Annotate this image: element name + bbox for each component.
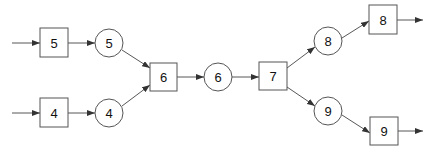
box-node-5: 5 [40,28,68,57]
edge-circle4-box6 [122,85,150,106]
circle-node-label: 6 [214,70,221,85]
circle-node-4: 4 [95,99,123,127]
circle-node-5: 5 [95,29,123,57]
edge-box7-circle9 [287,87,315,106]
circle-node-label: 8 [324,34,331,49]
edge-circle5-box6 [122,50,150,68]
box-node-label: 7 [269,69,276,84]
circle-node-9: 9 [314,97,342,125]
box-node-label: 4 [50,106,57,121]
circle-node-8: 8 [314,27,342,55]
box-node-label: 6 [160,70,167,85]
circle-node-label: 5 [105,36,112,51]
circle-node-label: 4 [105,106,112,121]
flow-diagram: 5 4 6 7 8 9 5 4 6 8 9 [0,0,439,153]
box-node-6: 6 [150,63,177,91]
box-node-label: 5 [50,36,57,51]
edge-box7-circle8 [287,47,315,68]
edge-circle8-box8 [342,21,369,38]
box-node-label: 8 [379,13,386,28]
box-node-4: 4 [40,98,68,127]
circle-node-label: 9 [324,104,331,119]
circle-node-6: 6 [204,63,232,91]
edge-circle9-box9 [342,115,370,133]
box-node-7: 7 [259,62,287,90]
box-node-9: 9 [370,117,398,145]
box-node-label: 9 [380,124,387,139]
box-node-8: 8 [369,5,397,34]
